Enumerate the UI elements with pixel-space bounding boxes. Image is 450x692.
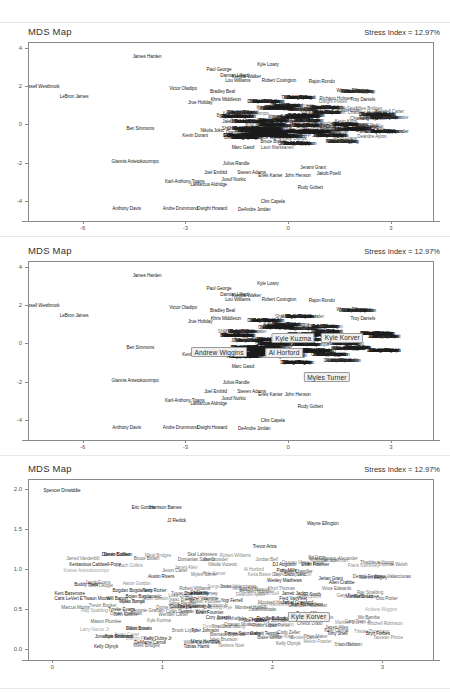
point-label: Tyler Johnson xyxy=(191,628,219,633)
panel-1-stress-index: Stress Index = 12.97% xyxy=(364,28,440,37)
point-label: James Harden xyxy=(133,54,162,59)
point-label: Tony Snell xyxy=(327,630,347,635)
point-label: Brook Lopez xyxy=(372,114,397,119)
point-label: Serge Ibaka xyxy=(372,347,396,352)
highlighted-point-label[interactable]: Al Horford xyxy=(265,348,303,358)
point-label: Jarred Vanderbilt xyxy=(66,556,99,561)
point-label: Lauri Markkanen xyxy=(261,145,294,150)
point-label: Kentavious Caldwell-Pope xyxy=(69,561,121,566)
divider-top xyxy=(0,22,450,23)
point-label: Otto Porter xyxy=(338,127,360,132)
y-tick-mark xyxy=(25,569,28,570)
highlighted-point-label[interactable]: Kyle Korver xyxy=(321,333,363,343)
point-label: Buddy Hield xyxy=(74,581,98,586)
point-label: Omari Spellman xyxy=(110,611,142,616)
point-label: Khris Middleton xyxy=(211,315,241,320)
mds-panel-3: MDS Map Stress Index = 12.97% Otto Porte… xyxy=(0,461,450,673)
point-label: Mario Hezonja xyxy=(191,638,220,643)
point-label: Troy Daniels xyxy=(350,316,375,321)
y-tick-label: 0 xyxy=(2,340,22,346)
y-tick-mark xyxy=(25,529,28,530)
point-label: John Henson xyxy=(285,392,311,397)
point-label: Jrue Holiday xyxy=(184,590,209,595)
mds-panel-2: MDS Map Stress Index = 12.97% Kyle Korve… xyxy=(0,243,450,455)
point-label: Jrue Holiday xyxy=(188,318,213,323)
x-tick-label: 3 xyxy=(389,444,392,450)
y-tick-mark xyxy=(25,609,28,610)
point-label: Marc Gasol xyxy=(232,145,255,150)
x-tick-label: -6 xyxy=(80,444,85,450)
point-label: LeBron James xyxy=(60,94,89,99)
point-label: Caris LeVert xyxy=(54,596,78,601)
point-label: Kelly Olynyk xyxy=(94,644,118,649)
point-label: Andrew Wiggins xyxy=(365,606,397,611)
point-label: Luka Doncic xyxy=(330,357,354,362)
point-label: Mikal Bridges xyxy=(145,552,172,557)
point-label: Bojan Bogdanovic xyxy=(126,593,162,598)
point-label: Markieff Morris xyxy=(335,620,364,625)
point-label: Al Horford xyxy=(374,333,394,338)
y-tick-mark xyxy=(25,649,28,650)
point-label: Trevor Ariza xyxy=(253,543,277,548)
point-label: Harrison Barnes xyxy=(150,505,182,510)
point-label: Marcus Smart xyxy=(345,593,373,598)
point-label: Terry Rozier xyxy=(143,588,167,593)
point-label: Josh Richardson xyxy=(290,601,323,606)
y-tick-label: 2 xyxy=(2,302,22,308)
y-tick-mark xyxy=(25,489,28,490)
point-label: Kostas Antetokounmpo xyxy=(63,567,109,572)
point-label: Ed Davis xyxy=(308,555,326,560)
point-label: LeBron James xyxy=(60,313,89,318)
point-label: DJ Augustin xyxy=(273,561,297,566)
point-label: Fred VanVleet xyxy=(279,596,307,601)
highlighted-point-label[interactable]: Andrew Wiggins xyxy=(191,347,247,357)
point-label: Jonas Valanciunas xyxy=(374,573,411,578)
y-tick-mark xyxy=(25,124,28,125)
point-label: Clint Capela xyxy=(261,417,285,422)
point-label: Russell Westbrook xyxy=(28,303,59,308)
point-label: Ben Simmons xyxy=(126,125,154,130)
point-label: Robin Lopez xyxy=(252,622,277,627)
x-tick-label: -6 xyxy=(80,225,85,231)
point-label: Svi Mykhailiuk xyxy=(283,140,311,145)
x-axis-line xyxy=(22,440,440,441)
point-label: Tobias Harris xyxy=(183,644,209,649)
point-label: Cody Zeller xyxy=(295,122,318,127)
point-label: Yogi Ferrell xyxy=(220,597,242,602)
y-tick-mark xyxy=(25,267,28,268)
point-label: Paul George xyxy=(207,286,232,291)
point-label: Blake Griffin xyxy=(257,635,281,640)
point-label: Thon Maker xyxy=(304,633,328,638)
point-label: Jarrett Allen xyxy=(174,565,197,570)
point-label: Courtney Lee xyxy=(170,604,197,609)
point-label: Austin Rivers xyxy=(148,573,174,578)
point-label: Allen Crabbe xyxy=(329,580,355,585)
point-label: Zach Collins xyxy=(118,562,142,567)
point-label: Lou Williams xyxy=(225,77,250,82)
point-label: Robert Covington xyxy=(262,78,296,83)
point-label: Taurean Prince xyxy=(373,635,403,640)
point-label: Patty Mills xyxy=(277,568,297,573)
point-label: Keita Bates-Diop xyxy=(332,346,365,351)
x-tick-label: 0 xyxy=(287,444,290,450)
point-label: DeAndre Jordan xyxy=(238,425,270,430)
point-label: Troy Daniels xyxy=(350,97,375,102)
point-label: Dwight Howard xyxy=(197,424,227,429)
mds-map-figure: MDS Map Stress Index = 12.97% Andrew Wig… xyxy=(0,0,450,692)
point-label: Dillon Brooks xyxy=(126,625,152,630)
panel-3-plot-area: Otto PorterMontrezl HarrellJarrett Allen… xyxy=(28,479,434,661)
point-label: Vince Edwards xyxy=(327,138,357,143)
point-label: Wayne Ellington xyxy=(307,521,339,526)
point-label: Robert Covington xyxy=(262,297,296,302)
point-label: Garrett Temple xyxy=(250,630,279,635)
point-label: Devin Booker xyxy=(104,551,131,556)
point-label: Thaddeus Young xyxy=(360,559,393,564)
highlighted-point-label[interactable]: Kyle Kuzma xyxy=(272,333,315,343)
highlighted-point-label[interactable]: Myles Turner xyxy=(304,372,350,382)
point-label: Andre Drummond xyxy=(163,424,198,429)
highlighted-point-label[interactable]: Kyle Korver xyxy=(288,612,330,622)
point-label: Collin Sexton xyxy=(166,609,192,614)
mds-panel-1: MDS Map Stress Index = 12.97% Andrew Wig… xyxy=(0,24,450,236)
panel-1-plot-area: Andrew WigginsBobby PortisNikola Vucevic… xyxy=(28,42,434,222)
point-label: Shai Gilgeous-Alexander xyxy=(275,314,324,319)
